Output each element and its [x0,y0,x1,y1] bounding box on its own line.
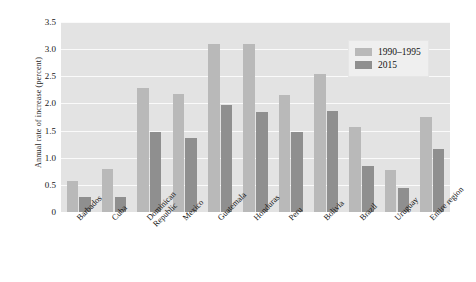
legend-item: 1990–1995 [355,45,421,58]
bar-group [137,22,161,212]
bar-group [314,22,338,212]
y-axis-tick-labels: 00.51.01.52.02.53.03.5 [30,0,56,282]
y-axis-tick-label: 0.5 [30,180,56,189]
bar-group [102,22,126,212]
bar [256,112,268,212]
legend-label: 2015 [378,60,397,70]
bar-group [173,22,197,212]
bar [243,44,255,212]
legend-item: 2015 [355,58,421,71]
y-axis-tick-label: 2.0 [30,99,56,108]
bar [102,169,114,212]
legend-swatch [355,48,372,56]
bar [327,111,339,212]
bar [137,88,149,212]
bar [221,105,233,212]
y-axis-tick-label: 2.5 [30,72,56,81]
legend-label: 1990–1995 [378,47,421,57]
bar [279,95,291,212]
bar-group [208,22,232,212]
bar [314,74,326,212]
bar-group [279,22,303,212]
bar [291,132,303,212]
y-axis-tick-label: 3.0 [30,45,56,54]
legend-swatch [355,61,372,69]
bar-group [67,22,91,212]
x-axis-tick-labels: BarbadosCubaDominicanRepublicMexicoGuate… [61,212,450,282]
y-axis-tick-label: 1.5 [30,126,56,135]
bar [67,181,79,212]
y-axis-tick-label: 1.0 [30,153,56,162]
bar-chart-figure: Annual rate of increase (percent) 00.51.… [0,0,476,282]
bar [208,44,220,212]
bar [385,170,397,212]
y-axis-tick-label: 3.5 [30,18,56,27]
bar [420,117,432,212]
bar-group [243,22,267,212]
y-axis-tick-label: 0 [30,208,56,217]
chart-legend: 1990–19952015 [348,40,429,77]
bar [349,127,361,212]
